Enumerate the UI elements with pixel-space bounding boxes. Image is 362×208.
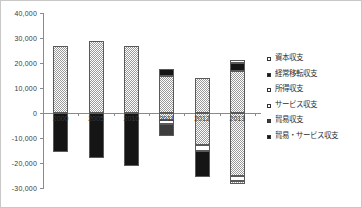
bar-segment [159,124,174,136]
y-axis-tick [40,188,43,189]
bar-segment [230,63,245,71]
legend-label: サービス収支 [275,100,317,109]
bar-segment [230,181,245,184]
x-axis-category-label: 2012 [184,115,220,122]
y-axis-line [43,13,44,189]
bar-segment [230,71,245,113]
bar-segment [159,76,174,113]
legend-label: 資本収支 [275,53,303,62]
x-axis-category-label: 2000 [43,115,79,122]
bar-segment [124,46,139,113]
y-axis-tick [40,163,43,164]
bar-segment [195,151,210,177]
x-axis-category-label: 2013 [219,115,255,122]
bar-segment [53,46,68,113]
y-axis-tick [40,63,43,64]
legend-marker-5 [267,119,271,123]
bar-segment [159,69,174,76]
bar-segment [230,113,245,176]
legend-marker-3 [267,88,271,92]
x-axis-category-label: 2010 [113,115,149,122]
legend-label: 所得収支 [275,84,303,93]
legend-marker-2 [267,73,271,77]
y-axis-tick-label: -10,000 [1,135,37,142]
legend-label: 経常移転収支 [275,69,317,78]
chart-figure: 資本収支経常移転収支所得収支サービス収支貿易収支貿易・サービス収支 40,000… [0,0,362,208]
legend-marker-1 [267,57,271,61]
legend-label: 貿易収支 [275,115,303,124]
legend-marker-4 [267,104,271,108]
y-axis-tick [40,88,43,89]
y-axis-tick [40,138,43,139]
y-axis-tick [40,13,43,14]
bar-segment [195,78,210,113]
bar-segment [230,60,245,63]
y-axis-tick-label: 30,000 [1,35,37,42]
y-axis-tick-label: 20,000 [1,60,37,67]
legend-label: 貿易・サービス収支 [275,131,338,140]
x-axis-category-label: 2011 [149,115,185,122]
y-axis-tick-label: -20,000 [1,160,37,167]
legend-marker-6 [267,135,271,139]
bar-segment [89,41,104,114]
x-axis-category-label: 2005 [78,115,114,122]
y-axis-tick-label: 0 [1,110,37,117]
zero-axis-line [43,113,261,114]
y-axis-tick [40,38,43,39]
y-axis-tick-label: 10,000 [1,85,37,92]
y-axis-tick-label: -30,000 [1,185,37,192]
y-axis-tick-label: 40,000 [1,10,37,17]
